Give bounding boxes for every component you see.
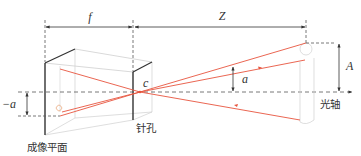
pinhole-center-label: c bbox=[143, 76, 149, 90]
object-cylinder bbox=[300, 43, 336, 124]
distance-label: Z bbox=[219, 9, 226, 23]
distance-dimension: Z bbox=[135, 9, 306, 43]
image-height-label: a bbox=[242, 72, 248, 86]
optical-axis: 光轴 bbox=[18, 92, 352, 110]
pinhole-center-point bbox=[139, 91, 142, 94]
focal-length-label: f bbox=[88, 10, 93, 24]
pinhole-label: 针孔 bbox=[136, 122, 157, 134]
inverted-image-label: −a bbox=[2, 97, 16, 111]
object-height-label: A bbox=[345, 59, 354, 73]
pinhole-camera-diagram: f Z 光轴 bbox=[0, 0, 361, 156]
inverted-image-dimension: −a bbox=[2, 93, 60, 116]
focal-length-dimension: f bbox=[45, 10, 133, 72]
light-rays bbox=[60, 43, 306, 120]
optical-axis-label: 光轴 bbox=[320, 98, 340, 110]
image-plane-label: 成像平面 bbox=[27, 141, 67, 153]
object-height-dimension: A bbox=[339, 44, 354, 91]
image-height-dimension: a bbox=[233, 67, 248, 91]
